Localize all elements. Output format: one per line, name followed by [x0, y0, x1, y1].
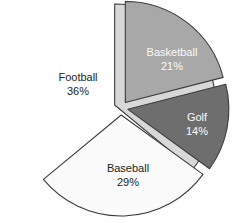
pie-chart-figure: Football 36% Basketball 21% Golf 14% Bas…: [0, 0, 243, 223]
pie-chart-svg: Football 36% Basketball 21% Golf 14% Bas…: [0, 0, 243, 223]
slice-label-football-name: Football: [58, 71, 97, 83]
slice-label-golf-name: Golf: [187, 111, 208, 123]
slice-label-baseball-name: Baseball: [107, 162, 149, 174]
slice-label-football-percent: 36%: [67, 85, 89, 97]
slice-label-baseball-percent: 29%: [117, 176, 139, 188]
slice-label-basketball-percent: 21%: [161, 60, 183, 72]
slice-label-golf-percent: 14%: [186, 125, 208, 137]
slice-label-basketball-name: Basketball: [147, 46, 198, 58]
